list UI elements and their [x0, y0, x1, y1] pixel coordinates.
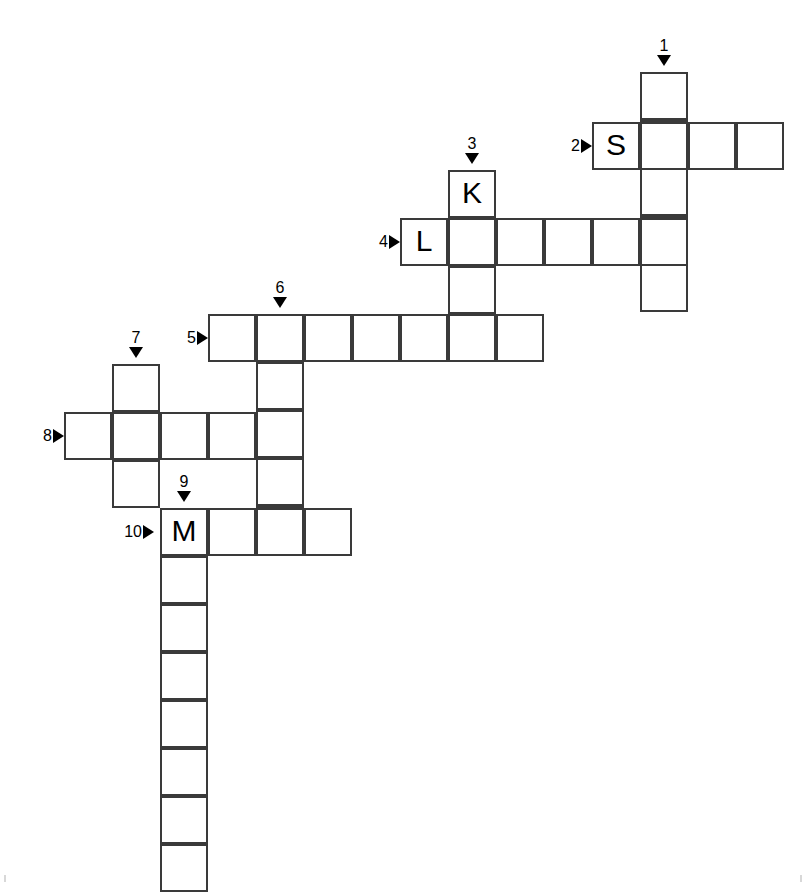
- grid-cell-empty[interactable]: [400, 314, 448, 362]
- grid-cell-empty[interactable]: [160, 556, 208, 604]
- grid-cell-empty[interactable]: [160, 652, 208, 700]
- grid-cell-empty[interactable]: [496, 314, 544, 362]
- clue-number: 5: [187, 330, 196, 346]
- clue-marker-7-down: 7: [123, 323, 149, 364]
- clue-marker-10-across: 10: [115, 519, 154, 545]
- grid-cell-empty[interactable]: [160, 412, 208, 460]
- grid-cell-empty[interactable]: [592, 218, 640, 266]
- grid-cell-empty[interactable]: [256, 362, 304, 410]
- grid-cell-empty[interactable]: [160, 844, 208, 892]
- clue-marker-1-down: 1: [651, 31, 677, 72]
- arrow-down-icon: [657, 55, 671, 66]
- grid-cell-empty[interactable]: [112, 412, 160, 460]
- clue-number: 2: [571, 138, 580, 154]
- crossword-puzzle: SKLM12345678910: [0, 0, 807, 894]
- grid-cell-empty[interactable]: [688, 122, 736, 170]
- grid-cell-empty[interactable]: [112, 460, 160, 508]
- grid-cell-empty[interactable]: [448, 314, 496, 362]
- grid-cell-empty[interactable]: [256, 508, 304, 556]
- grid-cell-empty[interactable]: [208, 314, 256, 362]
- grid-cell-empty[interactable]: [304, 314, 352, 362]
- grid-cell-empty[interactable]: [640, 218, 688, 266]
- arrow-right-icon: [197, 331, 208, 345]
- arrow-down-icon: [129, 347, 143, 358]
- page-corner-tick-left: [4, 875, 6, 882]
- grid-cell-empty[interactable]: [736, 122, 784, 170]
- arrow-down-icon: [273, 297, 287, 308]
- cell-letter: L: [416, 226, 433, 256]
- grid-cell-empty[interactable]: [640, 122, 688, 170]
- clue-marker-4-across: 4: [361, 229, 400, 255]
- grid-cell-empty[interactable]: [352, 314, 400, 362]
- grid-cell-empty[interactable]: [448, 266, 496, 314]
- grid-cell-empty[interactable]: [112, 364, 160, 412]
- grid-cell-empty[interactable]: [160, 700, 208, 748]
- grid-cell-empty[interactable]: [160, 796, 208, 844]
- clue-number: 6: [276, 280, 285, 296]
- clue-marker-9-down: 9: [171, 467, 197, 508]
- arrow-right-icon: [53, 429, 64, 443]
- grid-cell-empty[interactable]: [256, 314, 304, 362]
- grid-cell-empty[interactable]: [160, 604, 208, 652]
- cell-letter: S: [606, 130, 626, 160]
- grid-cell-filled[interactable]: S: [592, 122, 640, 170]
- grid-cell-filled[interactable]: M: [160, 508, 208, 556]
- clue-marker-6-down: 6: [267, 273, 293, 314]
- arrow-right-icon: [389, 235, 400, 249]
- arrow-right-icon: [143, 525, 154, 539]
- grid-cell-empty[interactable]: [640, 168, 688, 216]
- grid-cell-empty[interactable]: [496, 218, 544, 266]
- clue-marker-5-across: 5: [169, 325, 208, 351]
- grid-cell-empty[interactable]: [64, 412, 112, 460]
- clue-marker-2-across: 2: [553, 133, 592, 159]
- grid-cell-empty[interactable]: [640, 72, 688, 120]
- clue-number: 3: [468, 136, 477, 152]
- grid-cell-filled[interactable]: K: [448, 170, 496, 218]
- grid-cell-empty[interactable]: [544, 218, 592, 266]
- clue-number: 9: [180, 474, 189, 490]
- page-corner-tick-right: [800, 875, 802, 882]
- clue-number: 7: [132, 330, 141, 346]
- cell-letter: M: [172, 516, 197, 546]
- grid-cell-empty[interactable]: [448, 218, 496, 266]
- grid-cell-empty[interactable]: [640, 264, 688, 312]
- grid-cell-empty[interactable]: [208, 508, 256, 556]
- grid-cell-empty[interactable]: [256, 410, 304, 458]
- clue-marker-8-across: 8: [25, 423, 64, 449]
- grid-cell-empty[interactable]: [304, 508, 352, 556]
- grid-cell-empty[interactable]: [208, 412, 256, 460]
- clue-number: 8: [43, 428, 52, 444]
- arrow-right-icon: [581, 139, 592, 153]
- clue-number: 10: [124, 524, 142, 540]
- grid-cell-empty[interactable]: [160, 748, 208, 796]
- cell-letter: K: [462, 178, 482, 208]
- clue-number: 4: [379, 234, 388, 250]
- clue-number: 1: [660, 38, 669, 54]
- arrow-down-icon: [465, 153, 479, 164]
- arrow-down-icon: [177, 491, 191, 502]
- clue-marker-3-down: 3: [459, 129, 485, 170]
- grid-cell-filled[interactable]: L: [400, 218, 448, 266]
- grid-cell-empty[interactable]: [256, 458, 304, 506]
